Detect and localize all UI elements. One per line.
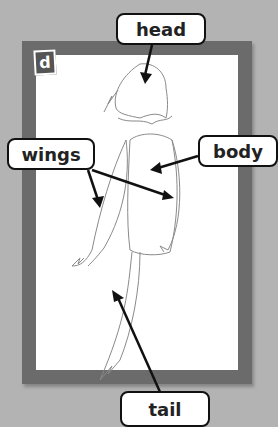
- head-outline: [115, 64, 167, 118]
- wings-label: wings: [7, 138, 95, 170]
- tail-outline: [100, 252, 140, 380]
- tail-label: tail: [120, 391, 210, 427]
- body-label: body: [198, 135, 278, 167]
- head-label: head: [116, 13, 206, 45]
- body-outline: [128, 134, 177, 255]
